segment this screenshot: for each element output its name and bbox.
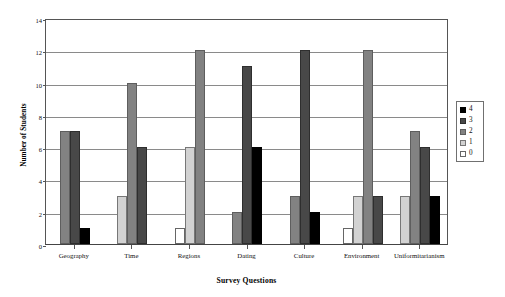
legend-swatch-icon bbox=[460, 151, 466, 157]
bar bbox=[117, 196, 127, 244]
x-axis-tick-mark bbox=[362, 245, 363, 249]
bar bbox=[310, 212, 320, 244]
y-axis-tick-mark bbox=[43, 246, 46, 247]
bar-group bbox=[391, 20, 449, 244]
chart-legend: 43210 bbox=[456, 101, 484, 162]
bar bbox=[195, 50, 205, 244]
bar bbox=[430, 196, 440, 244]
y-axis-tick-label: 4 bbox=[39, 178, 42, 185]
legend-swatch-icon bbox=[460, 140, 466, 146]
bar-group bbox=[334, 20, 392, 244]
y-axis-tick-label: 10 bbox=[35, 81, 42, 88]
x-axis-tick-label: Culture bbox=[294, 252, 314, 259]
y-axis-tick-label: 6 bbox=[39, 146, 42, 153]
y-axis-tick-label: 12 bbox=[35, 49, 42, 56]
x-axis-tick-mark bbox=[189, 245, 190, 249]
x-axis-tick-label: Environment bbox=[344, 252, 380, 259]
x-axis-tick-label: Geography bbox=[59, 252, 89, 259]
x-axis-tick-mark bbox=[131, 245, 132, 249]
x-axis-tick-mark bbox=[304, 245, 305, 249]
bar bbox=[343, 228, 353, 244]
legend-swatch-icon bbox=[460, 107, 466, 113]
bar bbox=[373, 196, 383, 244]
y-axis-tick-label: 2 bbox=[39, 210, 42, 217]
bar bbox=[300, 50, 310, 244]
bar bbox=[400, 196, 410, 244]
y-axis-tick-label: 0 bbox=[39, 243, 42, 250]
legend-item-label: 3 bbox=[469, 117, 473, 124]
bar bbox=[185, 147, 195, 244]
legend-item-label: 4 bbox=[469, 106, 473, 113]
y-axis-tick-label: 8 bbox=[39, 113, 42, 120]
legend-item-1: 1 bbox=[460, 137, 480, 148]
bar-group bbox=[276, 20, 334, 244]
bar bbox=[60, 131, 70, 244]
bar bbox=[290, 196, 300, 244]
bar-group bbox=[161, 20, 219, 244]
legend-swatch-icon bbox=[460, 129, 466, 135]
bar bbox=[363, 50, 373, 244]
x-axis-tick-mark bbox=[247, 245, 248, 249]
legend-item-label: 1 bbox=[469, 139, 473, 146]
x-axis-tick-mark bbox=[419, 245, 420, 249]
bar-group bbox=[219, 20, 277, 244]
bar-group bbox=[46, 20, 104, 244]
legend-item-0: 0 bbox=[460, 148, 480, 159]
legend-item-label: 0 bbox=[469, 150, 473, 157]
legend-item-3: 3 bbox=[460, 115, 480, 126]
bar bbox=[410, 131, 420, 244]
legend-item-4: 4 bbox=[460, 104, 480, 115]
bar bbox=[127, 83, 137, 244]
x-axis-title: Survey Questions bbox=[45, 276, 448, 285]
x-axis-tick-label: Uniformitarianism bbox=[394, 252, 445, 259]
bar-chart-figure: Number of Students 02468101214 Survey Qu… bbox=[0, 0, 505, 297]
x-axis-tick-label: Time bbox=[124, 252, 138, 259]
x-axis-tick-label: Dating bbox=[237, 252, 256, 259]
x-axis-tick-mark bbox=[74, 245, 75, 249]
bar bbox=[252, 147, 262, 244]
y-axis-tick-label: 14 bbox=[35, 17, 42, 24]
legend-swatch-icon bbox=[460, 118, 466, 124]
bar bbox=[80, 228, 90, 244]
bar bbox=[353, 196, 363, 244]
plot-area: 02468101214 bbox=[45, 19, 448, 245]
legend-item-2: 2 bbox=[460, 126, 480, 137]
bar bbox=[420, 147, 430, 244]
legend-item-label: 2 bbox=[469, 128, 473, 135]
bar bbox=[137, 147, 147, 244]
bar bbox=[70, 131, 80, 244]
x-axis-tick-label: Regions bbox=[178, 252, 200, 259]
bar bbox=[242, 66, 252, 244]
bar-group bbox=[104, 20, 162, 244]
y-axis-title: Number of Students bbox=[20, 65, 28, 205]
bar bbox=[175, 228, 185, 244]
bar bbox=[232, 212, 242, 244]
